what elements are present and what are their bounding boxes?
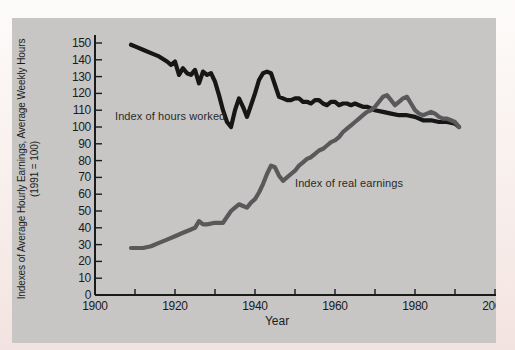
hours-worked-label: Index of hours worked [115, 110, 225, 122]
y-tick-label: 30 [57, 238, 91, 252]
x-tick-label: 1900 [73, 299, 117, 313]
y-tick-label: 70 [57, 170, 91, 184]
x-axis-title: Year [247, 314, 307, 328]
x-tick-label: 1940 [233, 299, 277, 313]
y-tick-label: 130 [57, 70, 91, 84]
y-tick-label: 50 [57, 204, 91, 218]
y-tick-label: 80 [57, 154, 91, 168]
y-axis-title-line2: (1991 = 100) [28, 33, 41, 305]
y-tick-label: 40 [57, 221, 91, 235]
x-tick-label: 1920 [153, 299, 197, 313]
y-tick-label: 20 [57, 254, 91, 268]
figure-frame: Indexes of Average Hourly Earnings, Aver… [0, 0, 515, 350]
y-tick-label: 150 [57, 36, 91, 50]
y-tick-label: 120 [57, 86, 91, 100]
y-axis-title: Indexes of Average Hourly Earnings, Aver… [15, 33, 41, 305]
real-earnings-label: Index of real earnings [295, 177, 403, 189]
y-tick-label: 100 [57, 120, 91, 134]
y-tick-label: 140 [57, 53, 91, 67]
x-tick-label: 1960 [313, 299, 357, 313]
y-tick-label: 110 [57, 103, 91, 117]
y-tick-label: 60 [57, 187, 91, 201]
chart-panel: Indexes of Average Hourly Earnings, Aver… [12, 18, 496, 343]
y-tick-label: 90 [57, 137, 91, 151]
y-axis-title-line1: Indexes of Average Hourly Earnings, Aver… [15, 33, 28, 305]
y-tick-label: 10 [57, 271, 91, 285]
x-tick-label: 2000 [473, 299, 496, 313]
x-tick-label: 1980 [393, 299, 437, 313]
